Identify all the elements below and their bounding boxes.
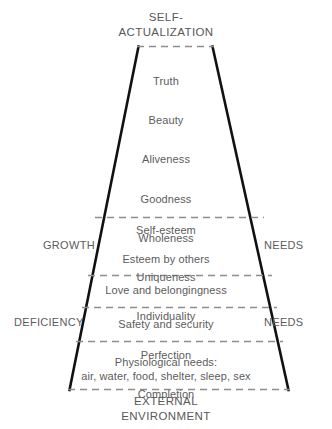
side-label-deficiency: DEFICIENCY — [14, 316, 84, 328]
side-label-growth-needs: NEEDS — [264, 239, 303, 251]
title-line-1: SELF- — [149, 11, 184, 23]
footer-line-2: ENVIRONMENT — [121, 410, 210, 422]
self-actualization-title: SELF-ACTUALIZATION — [0, 10, 332, 39]
being-value-item: Beauty — [0, 114, 332, 127]
being-value-item: Uniqueness — [0, 271, 332, 284]
side-label-growth: GROWTH — [43, 239, 95, 251]
tier-label-self-esteem: Self-esteem — [0, 224, 332, 237]
footer-line-1: EXTERNAL — [134, 395, 198, 407]
tier-label-love-and-belongingness: Love and belongingness — [0, 284, 332, 297]
tier-label-esteem-by-others: Esteem by others — [0, 253, 332, 266]
title-line-2: ACTUALIZATION — [118, 26, 213, 38]
being-value-item: Truth — [0, 75, 332, 88]
tier-label-physiological-needs: Physiological needs: air, water, food, s… — [0, 356, 332, 383]
being-value-item: Goodness — [0, 193, 332, 206]
external-environment-label: EXTERNALENVIRONMENT — [0, 394, 332, 423]
being-value-item: Aliveness — [0, 153, 332, 166]
maslow-hierarchy-diagram: SELF-ACTUALIZATION Truth Beauty Alivenes… — [0, 0, 332, 429]
side-label-deficiency-needs: NEEDS — [264, 316, 303, 328]
